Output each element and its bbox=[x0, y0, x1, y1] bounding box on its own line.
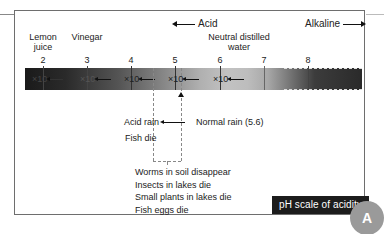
multiplier: ×10 bbox=[168, 74, 199, 84]
brace-tip bbox=[167, 161, 168, 165]
effect-item: Fish eggs die bbox=[135, 204, 232, 217]
arrow-left-icon bbox=[163, 122, 185, 123]
tick-3: 3 bbox=[84, 55, 89, 65]
tick-2: 2 bbox=[40, 55, 45, 65]
multiplier: ×10 bbox=[80, 74, 111, 84]
arrow-right-icon bbox=[343, 24, 363, 25]
arrow-left-icon bbox=[230, 79, 244, 80]
tick-5: 5 bbox=[172, 55, 177, 65]
fish-die-marker-line bbox=[153, 68, 154, 161]
effect-item: Worms in soil disappear bbox=[135, 166, 232, 179]
acid-rain-marker: Acid rain bbox=[124, 117, 185, 127]
figure-letter-badge: A bbox=[350, 201, 384, 234]
effects-list: Worms in soil disappear Insects in lakes… bbox=[135, 166, 232, 216]
fish-die-label: Fish die bbox=[125, 133, 157, 143]
substance-label: Vinegar bbox=[72, 32, 103, 42]
substance-label: water bbox=[208, 42, 270, 52]
arrow-left-icon bbox=[185, 79, 199, 80]
multiplier-label: ×10 bbox=[124, 74, 139, 84]
substance-lemon-juice: Lemon juice bbox=[29, 32, 57, 52]
substance-label: Neutral distilled bbox=[208, 32, 270, 42]
multiplier-label: ×10 bbox=[80, 74, 95, 84]
arrow-up-icon bbox=[178, 92, 184, 97]
frame-connector-left bbox=[0, 14, 14, 15]
substance-vinegar: Vinegar bbox=[72, 32, 103, 42]
tick-line bbox=[264, 66, 265, 90]
acid-direction: Acid bbox=[175, 19, 217, 29]
substance-neutral-water: Neutral distilled water bbox=[208, 32, 270, 52]
multiplier-label: ×10 bbox=[32, 74, 47, 84]
effect-item: Small plants in lakes die bbox=[135, 191, 232, 204]
arrow-left-icon bbox=[97, 79, 111, 80]
arrow-left-icon bbox=[175, 24, 195, 25]
normal-rain-marker-line bbox=[181, 68, 182, 161]
multiplier: ×10 bbox=[213, 74, 244, 84]
multiplier: ×10 bbox=[124, 74, 155, 84]
bar-alkaline-segment bbox=[284, 68, 362, 90]
substance-label: Lemon bbox=[29, 32, 57, 42]
tick-8: 8 bbox=[305, 55, 310, 65]
multiplier-label: ×10 bbox=[213, 74, 228, 84]
tick-6: 6 bbox=[217, 55, 222, 65]
arrow-left-icon bbox=[49, 79, 63, 80]
alkaline-label: Alkaline bbox=[305, 18, 340, 29]
substance-label: juice bbox=[29, 42, 57, 52]
tick-7: 7 bbox=[261, 55, 266, 65]
effect-item: Insects in lakes die bbox=[135, 179, 232, 192]
alkaline-direction: Alkaline bbox=[305, 19, 363, 29]
tick-line bbox=[308, 66, 309, 90]
acid-rain-label: Acid rain bbox=[124, 117, 159, 127]
acid-label: Acid bbox=[198, 18, 217, 29]
multiplier: ×10 bbox=[32, 74, 63, 84]
frame-connector-right bbox=[366, 14, 384, 15]
normal-rain-label: Normal rain (5.6) bbox=[196, 117, 264, 127]
tick-4: 4 bbox=[128, 55, 133, 65]
